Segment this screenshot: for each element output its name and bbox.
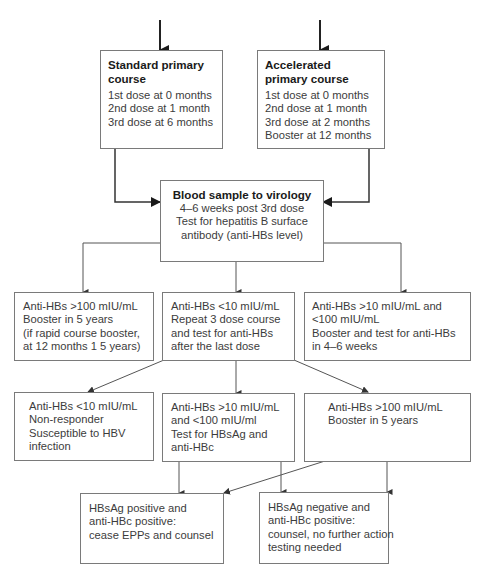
box-title: Standard primary course — [108, 58, 215, 86]
box-text: 3rd dose at 6 months — [108, 116, 215, 129]
box-text: 3rd dose at 2 months — [265, 116, 377, 129]
box-text: antibody (anti-HBs level) — [165, 229, 319, 242]
box-text: Booster and test for anti-HBs — [312, 327, 470, 340]
box-text: in 4–6 weeks — [312, 340, 470, 353]
result-mid-antihbs-box: Anti-HBs >10 mIU/mL and <100 mIU/mL Boos… — [304, 292, 471, 361]
box-text: anti-HBc — [171, 441, 294, 454]
accelerated-primary-course-box: Accelerated primary course 1st dose at 0… — [257, 50, 385, 149]
box-text: counsel, no further action — [268, 528, 388, 541]
box-text: <100 mIU/mL — [312, 313, 470, 326]
box-text: Anti-HBs <10 mIU/mL — [171, 300, 294, 313]
box-text: cease EPPs and counsel — [89, 529, 223, 542]
box-text: anti-HBc positive: — [268, 514, 388, 527]
box-text: HBsAg negative and — [268, 501, 388, 514]
box-text: infection — [29, 440, 153, 453]
box-text: (if rapid course booster, — [23, 327, 153, 340]
connector-repeat-to-nonresponder — [88, 360, 164, 392]
box-text: 2nd dose at 1 month — [108, 102, 215, 115]
box-text: and test for anti-HBs — [171, 327, 294, 340]
hbsag-positive-outcome-box: HBsAg positive and anti-HBc positive: ce… — [80, 493, 224, 564]
box-text: testing needed — [268, 541, 388, 554]
result-high-antihbs-box: Anti-HBs >100 mIU/mL Booster in 5 years … — [14, 292, 154, 361]
box-text: Anti-HBs >100 mIU/mL — [328, 401, 470, 414]
box-text: Repeat 3 dose course — [171, 313, 294, 326]
box-title: Blood sample to virology — [165, 188, 319, 202]
box-text: at 12 months 1 5 years) — [23, 340, 153, 353]
box-text: Anti-HBs <10 mIU/mL — [29, 400, 153, 413]
connector-accelerated-to-virology — [323, 148, 369, 202]
booster-5-years-box: Anti-HBs >100 mIU/mL Booster in 5 years — [304, 393, 471, 462]
box-title: Accelerated primary course — [265, 58, 377, 86]
box-text: 2nd dose at 1 month — [265, 102, 377, 115]
connector-layer — [0, 0, 489, 570]
connector-high2-to-positive — [224, 461, 325, 493]
result-low-antihbs-box: Anti-HBs <10 mIU/mL Repeat 3 dose course… — [162, 292, 295, 361]
non-responder-box: Anti-HBs <10 mIU/mL Non-responder Suscep… — [14, 392, 154, 461]
box-text: Test for hepatitis B surface — [165, 215, 319, 228]
box-text: Booster in 5 years — [328, 414, 470, 427]
box-text: HBsAg positive and — [89, 502, 223, 515]
standard-primary-course-box: Standard primary course 1st dose at 0 mo… — [100, 50, 223, 149]
box-text: Non-responder — [29, 413, 153, 426]
hbsag-negative-outcome-box: HBsAg negative and anti-HBc positive: co… — [259, 492, 389, 564]
box-text: Test for HBsAg and — [171, 428, 294, 441]
box-text: Booster in 5 years — [23, 313, 153, 326]
box-text: anti-HBc positive: — [89, 515, 223, 528]
box-text: 1st dose at 0 months — [108, 89, 215, 102]
connector-virology-to-mid — [323, 243, 401, 292]
box-text: Anti-HBs >10 mIU/mL and — [312, 300, 470, 313]
box-text: Anti-HBs >10 mIU/mL — [171, 401, 294, 414]
connector-standard-to-virology — [115, 148, 160, 202]
box-text: 4–6 weeks post 3rd dose — [165, 202, 319, 215]
connector-repeat-to-high2 — [294, 360, 368, 392]
box-text: and <100 mIU/ml — [171, 414, 294, 427]
box-text: Booster at 12 months — [265, 129, 377, 142]
virology-box: Blood sample to virology 4–6 weeks post … — [160, 180, 324, 262]
box-text: after the last dose — [171, 340, 294, 353]
box-text: 1st dose at 0 months — [265, 89, 377, 102]
test-hbsag-box: Anti-HBs >10 mIU/mL and <100 mIU/ml Test… — [162, 393, 295, 462]
box-text: Anti-HBs >100 mIU/mL — [23, 300, 153, 313]
box-text: Susceptible to HBV — [29, 427, 153, 440]
connector-virology-to-high — [83, 243, 160, 292]
